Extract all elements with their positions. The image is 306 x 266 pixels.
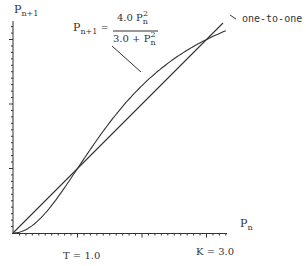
y-axis-label: Pn+1 bbox=[14, 4, 38, 15]
numerator-sub: n bbox=[143, 17, 148, 26]
one-to-one-label: one-to-one bbox=[242, 14, 302, 24]
y-axis-label-sub: n+1 bbox=[21, 9, 38, 18]
numerator-sup: 2 bbox=[143, 9, 148, 18]
capacity-label: K = 3.0 bbox=[196, 247, 234, 257]
denominator-sup: 2 bbox=[151, 30, 156, 39]
equation-leader-line bbox=[112, 46, 141, 72]
threshold-label: T = 1.0 bbox=[63, 251, 100, 261]
x-axis-label-sub: n bbox=[247, 223, 252, 232]
numerator-text: 4.0 P bbox=[117, 12, 143, 23]
equation-lhs-sub: n+1 bbox=[80, 27, 97, 36]
one-to-one-leader-line bbox=[230, 15, 236, 19]
one-to-one-line bbox=[13, 23, 223, 233]
equation-lhs: Pn+1 = bbox=[73, 22, 108, 33]
denominator-sub: n bbox=[150, 38, 155, 47]
axis-ticks bbox=[9, 27, 226, 238]
equation-denominator: 3.0 + Pn2 bbox=[113, 34, 156, 44]
equation-equals: = bbox=[101, 23, 109, 33]
equation-numerator: 4.0 Pn2 bbox=[117, 13, 148, 23]
denominator-text: 3.0 + P bbox=[113, 33, 150, 44]
recruitment-curve bbox=[13, 31, 226, 233]
x-axis-label: Pn bbox=[240, 218, 253, 229]
